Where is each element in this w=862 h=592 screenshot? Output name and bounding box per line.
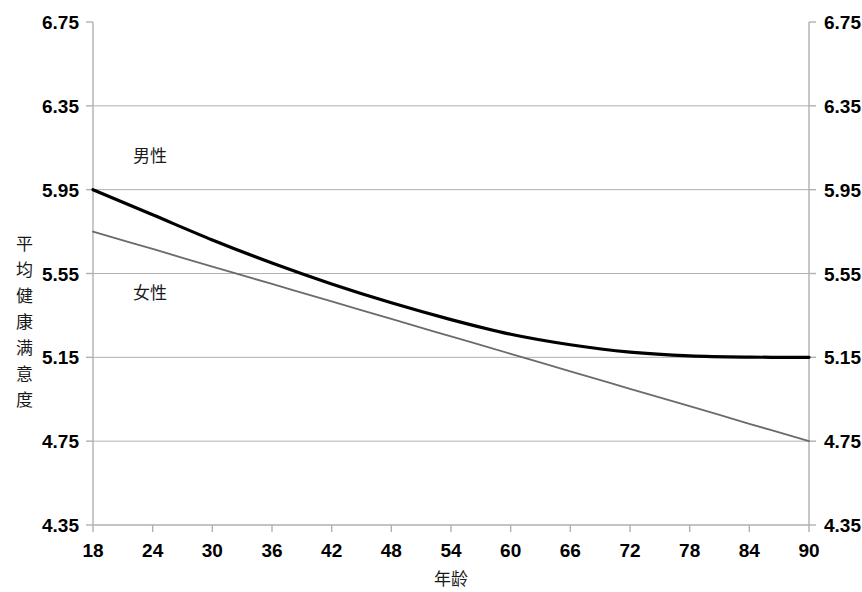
y-axis-tick-label-right: 6.75	[824, 12, 861, 33]
gridlines-group	[93, 106, 809, 441]
chart-canvas: 4.354.755.155.555.956.356.75 4.354.755.1…	[0, 0, 862, 592]
y-axis-title-char: 健	[16, 286, 33, 306]
y-axis-tick-label-right: 5.15	[824, 347, 861, 368]
y-axis-title-char: 意	[16, 364, 33, 384]
x-axis-tick-label: 48	[381, 540, 402, 561]
y-axis-title-char: 度	[16, 390, 33, 410]
series-line-female	[93, 232, 809, 442]
x-axis-tick-label: 66	[560, 540, 581, 561]
x-axis-tick-label: 84	[739, 540, 761, 561]
y-axis-left-tick-labels: 4.354.755.155.555.956.356.75	[42, 12, 79, 536]
x-axis-tick-label: 72	[619, 540, 640, 561]
x-axis-tick-label: 36	[261, 540, 282, 561]
y-axis-right-tick-labels: 4.354.755.155.555.956.356.75	[824, 12, 861, 536]
series-inline-labels: 男性女性	[133, 146, 167, 302]
x-axis-tick-label: 90	[798, 540, 819, 561]
series-label-male: 男性	[133, 146, 167, 166]
y-axis-tick-label-left: 5.95	[42, 180, 79, 201]
x-axis-tick-labels: 18243036424854606672788490	[82, 540, 819, 561]
x-axis-tick-label: 78	[679, 540, 700, 561]
y-axis-tick-label-right: 4.35	[824, 515, 861, 536]
y-axis-tick-label-left: 5.15	[42, 347, 79, 368]
y-axis-tick-label-right: 5.55	[824, 264, 861, 285]
x-axis-tick-label: 18	[82, 540, 103, 561]
health-satisfaction-line-chart: 4.354.755.155.555.956.356.75 4.354.755.1…	[0, 0, 862, 592]
y-axis-title-char: 平	[16, 234, 33, 254]
x-axis-tick-label: 54	[440, 540, 462, 561]
y-axis-title-char: 均	[16, 260, 33, 280]
x-axis-title: 年龄	[434, 569, 468, 589]
data-series-group	[93, 190, 809, 442]
y-axis-tick-label-left: 6.75	[42, 12, 79, 33]
x-axis-tick-label: 30	[202, 540, 223, 561]
y-axis-tick-label-right: 6.35	[824, 96, 861, 117]
tick-marks-group	[86, 22, 816, 532]
y-axis-title-char: 满	[16, 338, 33, 358]
x-axis-tick-label: 60	[500, 540, 521, 561]
y-axis-tick-label-left: 6.35	[42, 96, 79, 117]
y-axis-title-char: 康	[16, 312, 33, 332]
y-axis-tick-label-left: 4.75	[42, 431, 79, 452]
x-axis-tick-label: 42	[321, 540, 342, 561]
x-axis-tick-label: 24	[142, 540, 164, 561]
y-axis-tick-label-right: 5.95	[824, 180, 861, 201]
y-axis-tick-label-right: 4.75	[824, 431, 861, 452]
y-axis-tick-label-left: 5.55	[42, 264, 79, 285]
y-axis-tick-label-left: 4.35	[42, 515, 79, 536]
y-axis-title: 平均健康满意度	[16, 234, 33, 410]
series-label-female: 女性	[133, 283, 167, 303]
